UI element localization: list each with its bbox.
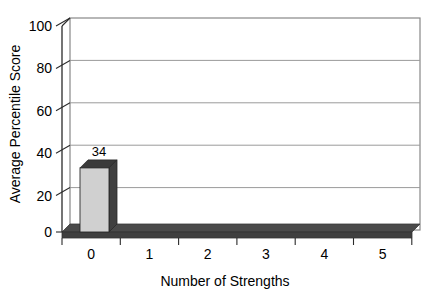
floor-front-face: [62, 232, 412, 238]
y-tick-label-80: 80: [36, 60, 52, 76]
bar-chart: 100 80 60 40 20 0 0 1 2 3 4 5 34: [0, 0, 438, 297]
bar-category-0: [80, 160, 117, 232]
bar-side-face: [109, 160, 117, 232]
x-tick-label-2: 2: [204, 246, 212, 262]
y-tick-40: [56, 145, 70, 153]
y-tick-labels: 100 80 60 40 20 0: [29, 18, 53, 240]
x-tick-labels: 0 1 2 3 4 5: [87, 246, 387, 262]
y-axis-title: Average Percentile Score: [7, 45, 23, 204]
floor-slab: [62, 224, 420, 238]
y-tick-label-100: 100: [29, 18, 53, 34]
x-axis-ticks: [62, 238, 412, 245]
y-tick-80: [56, 60, 70, 68]
y-tick-20: [56, 188, 70, 196]
y-tick-60: [56, 103, 70, 111]
y-axis: [56, 18, 70, 232]
y-tick-label-40: 40: [36, 145, 52, 161]
x-tick-label-1: 1: [146, 246, 154, 262]
bar-front-face: [80, 168, 109, 232]
x-tick-label-3: 3: [262, 246, 270, 262]
x-tick-label-4: 4: [320, 246, 328, 262]
bar-value-label-0: 34: [92, 144, 106, 159]
x-axis-title: Number of Strengths: [160, 273, 289, 289]
chart-canvas: 100 80 60 40 20 0 0 1 2 3 4 5 34: [0, 0, 438, 297]
plot-back-wall: [70, 18, 420, 230]
y-tick-label-60: 60: [36, 103, 52, 119]
x-tick-label-5: 5: [379, 246, 387, 262]
x-tick-label-0: 0: [87, 246, 95, 262]
y-tick-label-0: 0: [44, 224, 52, 240]
y-tick-label-20: 20: [36, 188, 52, 204]
